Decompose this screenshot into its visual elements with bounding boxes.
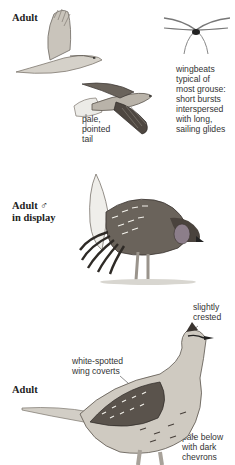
flying-grouse-icon [14,6,104,76]
truncated-header-text: ー ーー ー ー ー ー ー [0,0,235,2]
displaying-grouse-icon [78,172,208,292]
annotation-pale-pointed-tail: pale, pointed tail [82,114,110,144]
section-heading-adult-male-display: Adult ♂ in display [12,200,55,224]
wingbeat-diagram-icon [160,6,232,56]
standing-grouse-icon [20,318,220,465]
annotation-wingbeats: wingbeats typical of most grouse: short … [176,64,226,134]
